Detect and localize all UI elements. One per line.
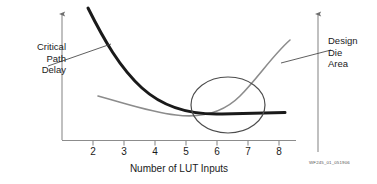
curve-design-die-area <box>98 40 290 116</box>
x-tick-label-2: 2 <box>86 146 100 157</box>
label-critical-path-delay: Critical Path Delay <box>8 41 66 76</box>
x-tick-label-8: 8 <box>272 146 286 157</box>
x-tick-label-3: 3 <box>117 146 131 157</box>
x-axis-title: Number of LUT Inputs <box>108 163 250 175</box>
label-design-die-area: Design Die Area <box>328 35 374 70</box>
figure-reference-code: WF245_01_051906 <box>309 160 350 165</box>
figure-lut-tradeoff: Critical Path Delay Design Die Area 2 3 … <box>0 0 377 184</box>
x-tick-label-6: 6 <box>210 146 224 157</box>
x-tick-label-5: 5 <box>179 146 193 157</box>
curve-critical-path-delay <box>88 8 285 114</box>
x-tick-label-4: 4 <box>148 146 162 157</box>
x-axis-ticks <box>93 141 279 146</box>
leader-line-design-die-area <box>281 50 331 63</box>
x-tick-label-7: 7 <box>241 146 255 157</box>
